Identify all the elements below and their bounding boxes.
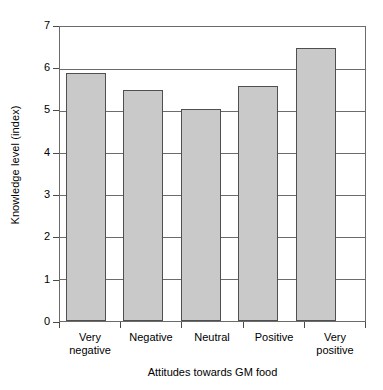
x-axis-label-line1: Positive bbox=[255, 331, 294, 343]
x-axis-label-very-negative: Very negative bbox=[55, 331, 125, 357]
x-tick-mark bbox=[120, 322, 121, 328]
x-axis-label-positive: Positive bbox=[239, 331, 309, 344]
y-axis-tick-label: 5 bbox=[36, 104, 50, 115]
bar-positive bbox=[238, 86, 278, 321]
x-axis-label-line1: Very bbox=[79, 331, 101, 343]
x-axis-label-neutral: Neutral bbox=[177, 331, 247, 344]
x-axis-label-line1: Very bbox=[324, 331, 346, 343]
x-tick-mark bbox=[59, 322, 60, 328]
x-tick-mark bbox=[304, 322, 305, 328]
x-axis-title: Attitudes towards GM food bbox=[59, 366, 366, 378]
x-axis-label-line2: positive bbox=[300, 344, 370, 357]
x-axis-label-very-positive: Very positive bbox=[300, 331, 370, 357]
bar-negative bbox=[123, 90, 163, 321]
y-axis-title-text: Knowledge level (index) bbox=[9, 105, 21, 224]
bar-very-positive bbox=[296, 48, 336, 321]
y-axis-tick-label: 0 bbox=[36, 316, 50, 327]
y-axis-tick-label: 7 bbox=[36, 20, 50, 31]
y-axis-tick-label: 6 bbox=[36, 62, 50, 73]
y-axis-tick-label: 4 bbox=[36, 147, 50, 158]
y-axis-tick-label: 1 bbox=[36, 274, 50, 285]
x-axis-label-line2: negative bbox=[55, 344, 125, 357]
bar-neutral bbox=[181, 109, 221, 321]
x-tick-mark bbox=[181, 322, 182, 328]
x-axis-label-negative: Negative bbox=[116, 331, 186, 344]
bar-chart-figure: Knowledge level (index) 7 6 5 4 3 2 1 0 bbox=[0, 0, 383, 390]
y-axis-title: Knowledge level (index) bbox=[5, 0, 25, 330]
y-axis-tick-label: 3 bbox=[36, 189, 50, 200]
y-axis-tick-label: 2 bbox=[36, 231, 50, 242]
bar-very-negative bbox=[66, 73, 106, 321]
plot-area bbox=[59, 26, 366, 322]
x-tick-mark bbox=[365, 322, 366, 328]
x-axis-label-line1: Neutral bbox=[194, 331, 229, 343]
x-axis-label-line1: Negative bbox=[129, 331, 172, 343]
x-tick-mark bbox=[243, 322, 244, 328]
